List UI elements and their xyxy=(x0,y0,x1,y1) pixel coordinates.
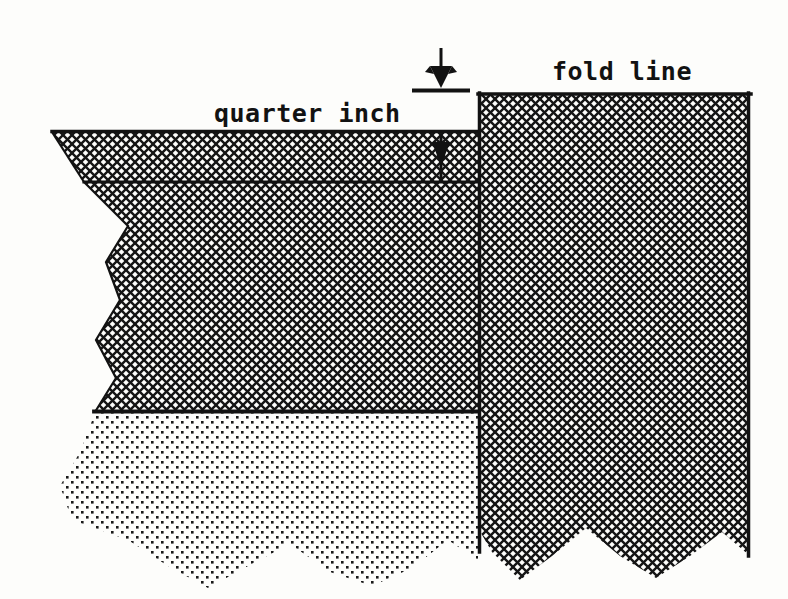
folded-fabric-body xyxy=(80,176,500,421)
fold-line-label: fold line xyxy=(552,58,692,86)
quarter-inch-label: quarter inch xyxy=(214,100,401,128)
upper-dimension-arrow xyxy=(414,48,468,91)
under-fabric-stipple xyxy=(50,408,490,598)
fold-line-diagram xyxy=(0,0,788,599)
fold-line-column xyxy=(470,88,760,588)
figure-canvas: quarter inch fold line xyxy=(0,0,788,599)
